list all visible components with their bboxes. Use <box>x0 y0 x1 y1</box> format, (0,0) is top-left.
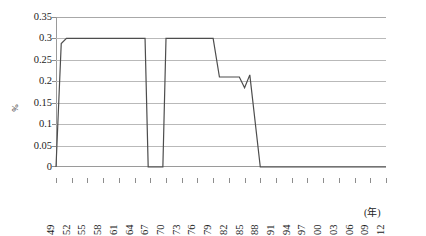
x-axis-tick-mark <box>72 178 73 183</box>
x-axis-tick-label: 1973 <box>171 225 182 236</box>
x-axis-tick-label: 1997 <box>296 225 307 236</box>
x-axis-tick-mark <box>307 178 308 183</box>
x-axis-tick-label: 2009 <box>359 225 370 236</box>
x-axis-tick-mark <box>213 178 214 183</box>
x-axis-tick-mark <box>323 178 324 183</box>
x-axis-unit-label: (年) <box>364 207 381 218</box>
x-axis-tick-label: 1991 <box>265 225 276 236</box>
x-axis-tick-label: 2000 <box>312 225 323 236</box>
y-axis-tick-label: 0 <box>8 162 52 172</box>
y-axis-tick-labels: 0.35 0.3 0.25 0.2 0.15 0.1 0.05 0 <box>0 0 52 235</box>
x-axis-tick-label: 1994 <box>281 225 292 236</box>
x-axis-tick-mark <box>182 178 183 183</box>
x-axis-tick-label: 1988 <box>249 225 260 236</box>
x-axis-tick-label: 1970 <box>155 225 166 236</box>
x-axis-tick-labels: 1949195219551958196119641967197019731976… <box>56 168 416 235</box>
y-axis-tick-label: 0.25 <box>8 55 52 65</box>
y-axis-tick-label: 0.3 <box>8 33 52 43</box>
line-chart: % 0.35 0.3 0.25 0.2 0.15 0.1 0.05 0 1949… <box>0 0 426 235</box>
x-axis-tick-label: 1979 <box>202 225 213 236</box>
x-axis-tick-mark <box>197 178 198 183</box>
x-axis-tick-label: 2003 <box>328 225 339 236</box>
x-axis-tick-mark <box>119 178 120 183</box>
x-axis-tick-mark <box>103 178 104 183</box>
y-axis-tick-label: 0.1 <box>8 119 52 129</box>
x-axis-tick-mark <box>150 178 151 183</box>
x-axis-tick-label: 1982 <box>218 225 229 236</box>
x-axis-tick-mark <box>276 178 277 183</box>
x-axis-tick-label: 1958 <box>92 225 103 236</box>
x-axis-tick-label: 1955 <box>76 225 87 236</box>
x-axis-tick-mark <box>370 178 371 183</box>
x-axis-tick-mark <box>166 178 167 183</box>
x-axis-tick-label: 1985 <box>234 225 245 236</box>
x-axis-tick-label: 1964 <box>124 225 135 236</box>
x-axis-tick-label: 1961 <box>108 225 119 236</box>
y-axis-tick-label: 0.2 <box>8 76 52 86</box>
x-axis-tick-label: 2006 <box>344 225 355 236</box>
x-axis-tick-mark <box>355 178 356 183</box>
x-axis-tick-label: 1967 <box>139 225 150 236</box>
x-axis-tick-mark <box>135 178 136 183</box>
y-axis-tick-label: 0.05 <box>8 141 52 151</box>
y-axis-tick-label: 0.15 <box>8 98 52 108</box>
x-axis-tick-mark <box>339 178 340 183</box>
data-series-line <box>56 17 386 167</box>
plot-area <box>56 17 386 167</box>
x-axis-tick-mark <box>56 178 57 183</box>
x-axis-tick-mark <box>292 178 293 183</box>
y-axis-tick-label: 0.35 <box>8 12 52 22</box>
x-axis-tick-mark <box>245 178 246 183</box>
x-axis-tick-mark <box>260 178 261 183</box>
x-axis-tick-label: 1976 <box>186 225 197 236</box>
x-axis-tick-label: 1952 <box>61 225 72 236</box>
x-axis-tick: 2012 <box>379 183 393 235</box>
x-axis-tick-mark <box>386 178 387 183</box>
x-axis-tick-label: 2012 <box>375 225 386 236</box>
x-axis-tick-label: 1949 <box>45 225 56 236</box>
x-axis-tick-mark <box>87 178 88 183</box>
x-axis-tick-mark <box>229 178 230 183</box>
